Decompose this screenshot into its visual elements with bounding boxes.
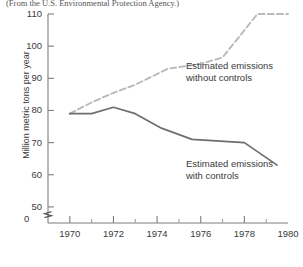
x-tick-label: 1980 [268,228,303,239]
x-tick-label: 1972 [93,228,133,239]
series-line-with-controls [70,107,277,165]
axis-layer [45,14,289,223]
y-axis-zero-label: 0 [24,213,29,224]
y-tick-label: 100 [16,41,42,51]
x-tick-label: 1976 [181,228,221,239]
x-tick-label: 1974 [137,228,177,239]
chart-figure: (From the U.S. Environmental Protection … [0,0,303,267]
line-chart-canvas [0,0,303,267]
y-axis-break-symbol [45,212,52,218]
annotation-with-controls: Estimated emissionswith controls [186,158,273,181]
y-tick-label: 70 [16,138,42,148]
annotation-line: Estimated emissions [186,158,273,170]
annotation-line: Estimated emissions [186,60,273,72]
y-tick-label: 110 [16,9,42,19]
y-tick-label: 90 [16,73,42,83]
y-tick-label: 80 [16,105,42,115]
x-tick-label: 1970 [50,228,90,239]
y-tick-label: 60 [16,170,42,180]
y-tick-label: 50 [16,202,42,212]
x-tick-label: 1978 [224,228,264,239]
annotation-line: with controls [186,170,273,182]
annotation-without-controls: Estimated emissionswithout controls [186,60,273,83]
annotation-line: without controls [186,72,273,84]
series-layer [70,14,288,165]
